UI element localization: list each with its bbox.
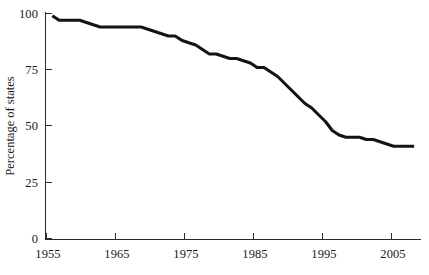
line-chart-plot: 100 75 50 25 0 1955 1965 1975 1985 1995 … — [0, 0, 429, 275]
y-tick-label-100: 100 — [19, 7, 38, 21]
y-tick-marks — [46, 14, 53, 239]
x-tick-label-1965: 1965 — [104, 247, 129, 261]
x-tick-marks — [47, 233, 392, 240]
x-tick-label-1995: 1995 — [311, 247, 336, 261]
x-tick-label-2005: 2005 — [380, 247, 405, 261]
x-tick-label-1985: 1985 — [242, 247, 267, 261]
x-tick-label-1955: 1955 — [35, 247, 60, 261]
y-axis-title: Percentage of states — [3, 76, 17, 175]
y-tick-label-25: 25 — [25, 176, 38, 190]
data-series-line — [52, 16, 414, 147]
y-tick-label-75: 75 — [25, 63, 38, 77]
y-tick-label-50: 50 — [25, 119, 38, 133]
y-tick-label-0: 0 — [32, 232, 38, 246]
x-tick-label-1975: 1975 — [173, 247, 198, 261]
chart-figure: 100 75 50 25 0 1955 1965 1975 1985 1995 … — [0, 0, 429, 275]
